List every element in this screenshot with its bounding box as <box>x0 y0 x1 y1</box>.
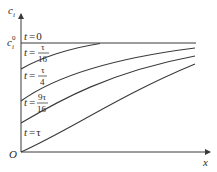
label-t-9tau-16: t= <box>24 96 35 108</box>
origin-label: O <box>9 148 17 160</box>
label-t-9tau-16-den: 16 <box>37 104 47 114</box>
label-t-tau-16-den: 16 <box>38 54 48 64</box>
y-axis-label: ci <box>8 4 15 19</box>
label-t-tau: t=τ <box>24 126 41 138</box>
concentration-profile-diagram: ci c0 i t=0 t= τ 16 t= τ 4 t= 9τ 16 t=τ … <box>0 0 217 172</box>
label-t-9tau-16-num: 9τ <box>38 92 47 102</box>
c0-sub-label: i <box>12 43 14 51</box>
label-t-tau-4: t= <box>24 69 35 81</box>
label-t-tau-4-num: τ <box>41 65 45 75</box>
label-t-tau-16: t= <box>24 46 35 58</box>
label-t-tau-16-num: τ <box>41 42 45 52</box>
curve-t-9tau-16 <box>21 56 195 123</box>
curve-t-tau-4 <box>21 48 195 101</box>
diagram-canvas: ci c0 i t=0 t= τ 16 t= τ 4 t= 9τ 16 t=τ … <box>0 0 217 172</box>
label-t-tau-4-den: 4 <box>40 77 45 87</box>
x-axis-label: x <box>202 156 208 168</box>
label-t-0: t=0 <box>24 30 42 42</box>
